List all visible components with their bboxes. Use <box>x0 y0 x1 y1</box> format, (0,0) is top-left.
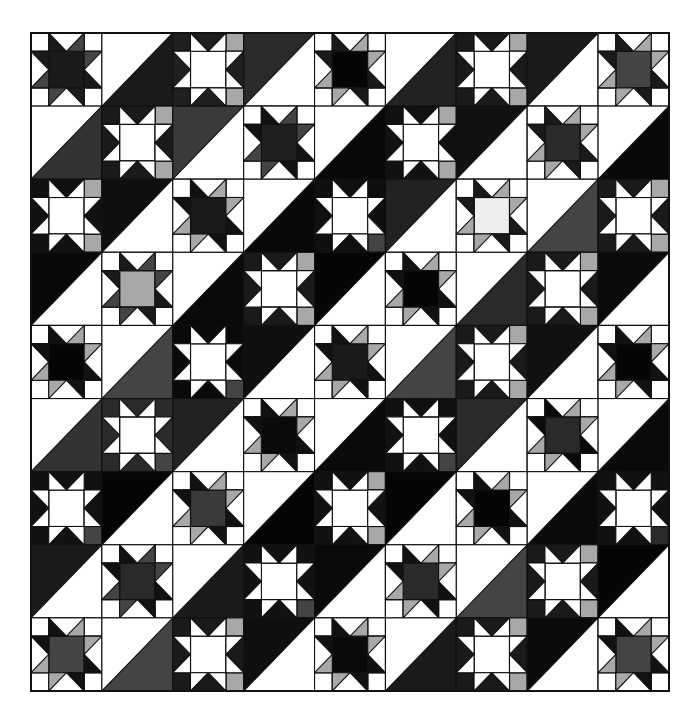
half-square-triangle-block <box>456 545 527 618</box>
half-square-triangle-block <box>31 545 102 618</box>
star-block <box>598 325 669 398</box>
half-square-triangle-block <box>385 472 456 545</box>
star-block <box>31 618 102 691</box>
half-square-triangle-block <box>527 472 598 545</box>
star-block <box>385 399 456 472</box>
star-block <box>102 545 173 618</box>
star-block <box>598 472 669 545</box>
half-square-triangle-block <box>244 472 315 545</box>
star-block <box>31 33 102 106</box>
star-block <box>527 106 598 179</box>
star-block <box>315 179 386 252</box>
star-block <box>527 399 598 472</box>
half-square-triangle-block <box>598 252 669 325</box>
half-square-triangle-block <box>456 106 527 179</box>
star-block <box>102 399 173 472</box>
star-block <box>31 472 102 545</box>
star-block <box>244 545 315 618</box>
half-square-triangle-block <box>315 252 386 325</box>
star-block <box>173 33 244 106</box>
half-square-triangle-block <box>598 545 669 618</box>
star-block <box>527 545 598 618</box>
half-square-triangle-block <box>385 325 456 398</box>
star-block <box>102 106 173 179</box>
quilt-grid <box>0 0 698 716</box>
star-block <box>315 33 386 106</box>
star-block <box>456 179 527 252</box>
half-square-triangle-block <box>527 618 598 691</box>
half-square-triangle-block <box>527 33 598 106</box>
star-block <box>244 399 315 472</box>
quilt-illustration <box>0 0 698 716</box>
half-square-triangle-block <box>244 179 315 252</box>
half-square-triangle-block <box>173 106 244 179</box>
star-block <box>315 472 386 545</box>
half-square-triangle-block <box>598 106 669 179</box>
half-square-triangle-block <box>102 179 173 252</box>
half-square-triangle-block <box>456 399 527 472</box>
star-block <box>31 325 102 398</box>
half-square-triangle-block <box>385 33 456 106</box>
star-block <box>598 33 669 106</box>
star-block <box>385 252 456 325</box>
half-square-triangle-block <box>598 399 669 472</box>
star-block <box>173 179 244 252</box>
half-square-triangle-block <box>527 179 598 252</box>
half-square-triangle-block <box>31 399 102 472</box>
half-square-triangle-block <box>244 325 315 398</box>
half-square-triangle-block <box>102 33 173 106</box>
star-block <box>385 545 456 618</box>
half-square-triangle-block <box>244 33 315 106</box>
star-block <box>456 618 527 691</box>
star-block <box>315 325 386 398</box>
half-square-triangle-block <box>315 399 386 472</box>
half-square-triangle-block <box>31 106 102 179</box>
star-block <box>527 252 598 325</box>
star-block <box>173 325 244 398</box>
half-square-triangle-block <box>173 545 244 618</box>
half-square-triangle-block <box>315 545 386 618</box>
half-square-triangle-block <box>244 618 315 691</box>
half-square-triangle-block <box>102 472 173 545</box>
star-block <box>456 33 527 106</box>
half-square-triangle-block <box>385 179 456 252</box>
half-square-triangle-block <box>456 252 527 325</box>
half-square-triangle-block <box>315 106 386 179</box>
half-square-triangle-block <box>173 252 244 325</box>
star-block <box>244 252 315 325</box>
half-square-triangle-block <box>385 618 456 691</box>
star-block <box>173 618 244 691</box>
half-square-triangle-block <box>31 252 102 325</box>
star-block <box>598 618 669 691</box>
half-square-triangle-block <box>102 618 173 691</box>
star-block <box>31 179 102 252</box>
star-block <box>456 325 527 398</box>
star-block <box>102 252 173 325</box>
star-block <box>173 472 244 545</box>
star-block <box>244 106 315 179</box>
star-block <box>598 179 669 252</box>
half-square-triangle-block <box>102 325 173 398</box>
star-block <box>315 618 386 691</box>
half-square-triangle-block <box>527 325 598 398</box>
star-block <box>385 106 456 179</box>
star-block <box>456 472 527 545</box>
half-square-triangle-block <box>173 399 244 472</box>
